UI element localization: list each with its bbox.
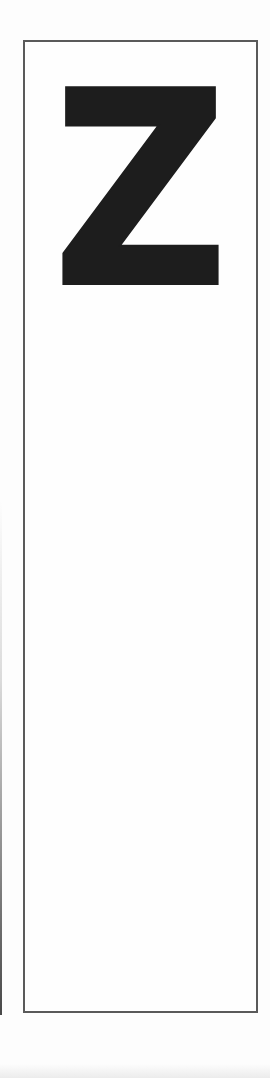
page-background: Z	[0, 0, 270, 1078]
letter-card: Z	[23, 40, 258, 1013]
scanned-page: { "card": { "letter": "Z" }, "colors": {…	[0, 0, 270, 1078]
scan-shadow-bottom	[0, 1064, 270, 1078]
letter-z: Z	[37, 56, 245, 326]
adjacent-page-edge-line	[0, 500, 2, 1015]
